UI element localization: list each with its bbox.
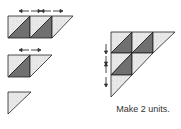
row-3-triangle <box>8 92 31 114</box>
end-triangle <box>52 16 73 38</box>
row-2 <box>8 49 52 78</box>
row-1 <box>8 10 73 39</box>
press-arrows-vertical-icon <box>105 44 108 87</box>
press-arrows-icon <box>19 10 63 13</box>
hst-square <box>8 55 30 77</box>
hst-square <box>30 16 52 38</box>
caption: Make 2 units. <box>110 104 176 114</box>
assembled-unit <box>105 32 176 97</box>
end-triangle <box>30 55 52 77</box>
hst-square <box>8 16 30 38</box>
press-arrows-icon <box>19 49 41 52</box>
